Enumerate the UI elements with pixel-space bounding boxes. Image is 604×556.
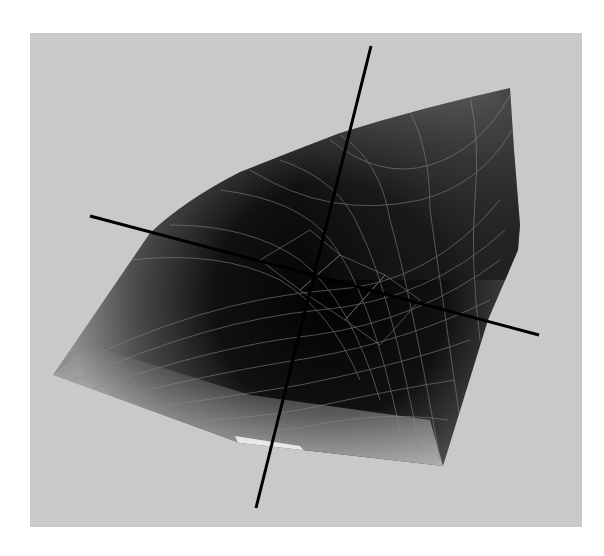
surface bbox=[53, 80, 530, 466]
render-viewport bbox=[30, 33, 582, 527]
mesh-surface-scene bbox=[30, 33, 582, 527]
